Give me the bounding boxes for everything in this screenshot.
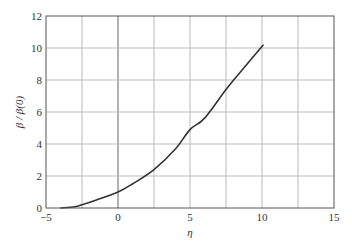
- x-tick-label: 5: [187, 211, 193, 223]
- y-tick-label: 2: [37, 170, 43, 182]
- gridlines: [46, 16, 334, 208]
- y-tick-label: 12: [31, 10, 42, 22]
- x-tick-label: 10: [257, 211, 269, 223]
- data-line: [60, 45, 263, 208]
- y-tick-label: 6: [37, 106, 43, 118]
- y-axis-label: β / β(0): [13, 95, 26, 129]
- y-tick-label: 4: [37, 138, 43, 150]
- y-tick-label: 8: [37, 74, 43, 86]
- tick-labels: −5051015024681012: [31, 10, 340, 223]
- x-tick-label: 0: [115, 211, 121, 223]
- plot-area: [60, 45, 263, 208]
- y-tick-label: 10: [31, 42, 43, 54]
- y-tick-label: 0: [37, 202, 43, 214]
- line-chart: −5051015024681012 η β / β(0): [0, 0, 352, 244]
- x-tick-label: 15: [329, 211, 341, 223]
- x-axis-label: η: [187, 226, 192, 238]
